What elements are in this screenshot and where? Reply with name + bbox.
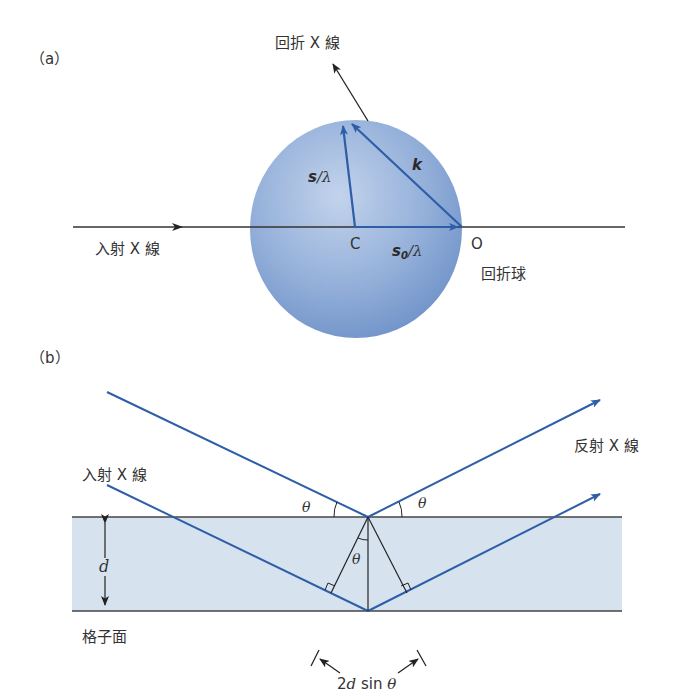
lattice-band [72,517,622,611]
incident-ray-upper [107,392,368,517]
reflected-ray-upper [368,400,600,517]
s0-over-lambda-label: s0/λ [392,242,422,261]
angle-arc-incident [334,502,337,517]
panel-b: （b） θ θ θ d 2d s [30,349,639,693]
diffracted-ray-line [333,64,368,121]
panel-b-label: （b） [30,349,70,367]
point-o-label: O [471,235,483,253]
theta-label-incident: θ [302,499,311,515]
point-c-label: C [350,235,360,253]
ewald-sphere-label: 回折球 [481,265,526,283]
theta-label-reflected: θ [418,495,427,511]
ewald-sphere [250,120,462,338]
path-diff-tick-right [417,650,426,666]
path-diff-arrow-left [320,659,340,673]
path-difference-label: 2d sin θ [337,675,396,693]
s-over-lambda-label: s/λ [308,168,332,186]
panel-a-label: （a） [30,50,69,68]
spacing-d-label: d [99,557,109,576]
diffracted-xray-label: 回折 X 線 [275,34,340,52]
path-diff-tick-left [311,650,319,666]
path-diff-arrow-right [398,659,418,673]
panel-a: （a） 回折 X 線 入射 X 線 回折球 C O s/λ k s0/λ [30,34,625,338]
incident-xray-label-b: 入射 X 線 [82,466,147,484]
theta-label-inner: θ [352,551,361,567]
lattice-plane-label: 格子面 [82,628,127,646]
reflected-xray-label: 反射 X 線 [574,437,639,455]
diagram-canvas: （a） 回折 X 線 入射 X 線 回折球 C O s/λ k s0/λ （b） [0,0,681,695]
incident-xray-label: 入射 X 線 [95,240,160,258]
k-label: k [412,156,423,174]
angle-arc-reflected [399,502,402,517]
